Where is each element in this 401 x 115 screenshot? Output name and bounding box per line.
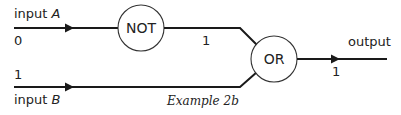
- input-a-arrow-icon: [65, 24, 74, 33]
- input-b-wire: [14, 72, 257, 87]
- input-b-label: input B: [14, 92, 61, 107]
- or-gate-label: OR: [264, 51, 285, 67]
- logic-circuit-diagram: input A 0 NOT 1 1 input B OR output 1 Ex…: [0, 0, 401, 115]
- output-label: output: [348, 34, 391, 49]
- output-value: 1: [332, 64, 340, 79]
- not-gate-label: NOT: [126, 20, 156, 36]
- not-output-wire: [164, 28, 257, 45]
- input-b-value: 1: [14, 67, 22, 82]
- input-a-label: input A: [14, 6, 60, 21]
- input-a-value: 0: [14, 33, 22, 48]
- diagram-caption: Example 2b: [166, 94, 239, 108]
- input-b-arrow-icon: [65, 83, 74, 92]
- not-output-value: 1: [202, 33, 210, 48]
- output-arrow-icon: [331, 55, 340, 64]
